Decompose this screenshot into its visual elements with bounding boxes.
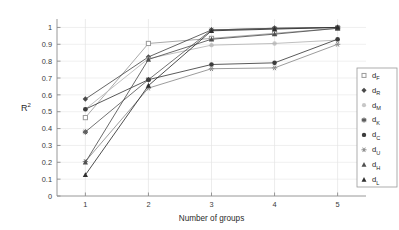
y-tick-label: 1 <box>48 23 52 32</box>
y-tick-label: 0.1 <box>42 175 52 184</box>
x-tick-label: 2 <box>146 200 150 209</box>
data-point-d_C-x2 <box>146 77 151 82</box>
data-point-d_F-x1 <box>83 116 87 120</box>
data-point-d_C-x5 <box>335 37 340 42</box>
y-tick-label: 0.2 <box>42 158 52 167</box>
data-point-d_F-x2 <box>146 41 150 45</box>
x-tick-label: 1 <box>83 200 87 209</box>
x-axis-title: Number of groups <box>179 214 245 223</box>
data-point-d_R-x1 <box>83 96 88 101</box>
data-point-d_M-x3 <box>209 43 213 47</box>
data-point-d_C-x4 <box>272 61 277 66</box>
y-tick-label: 0.8 <box>42 57 52 66</box>
x-tick-label: 5 <box>336 200 340 209</box>
data-point-d_M-x4 <box>272 41 276 45</box>
y-tick-label: 0.3 <box>42 141 52 150</box>
y-tick-label: 0.6 <box>42 91 52 100</box>
data-point-d_C-x1 <box>83 107 88 112</box>
y-tick-label: 0.4 <box>42 124 52 133</box>
y-tick-label: 0 <box>48 192 52 201</box>
y-tick-label: 0.5 <box>42 107 52 116</box>
chart-figure: 00.10.20.30.40.50.60.70.80.9112345Number… <box>0 0 399 230</box>
x-tick-label: 3 <box>209 200 213 209</box>
y-tick-label: 0.9 <box>42 40 52 49</box>
r2-vs-groups-line-chart: 00.10.20.30.40.50.60.70.80.9112345Number… <box>0 0 399 230</box>
x-tick-label: 4 <box>272 200 276 209</box>
y-axis-title: R2 <box>21 102 32 113</box>
data-point-d_K-x1 <box>83 129 88 134</box>
data-point-d_C-x3 <box>209 62 214 67</box>
y-tick-label: 0.7 <box>42 74 52 83</box>
